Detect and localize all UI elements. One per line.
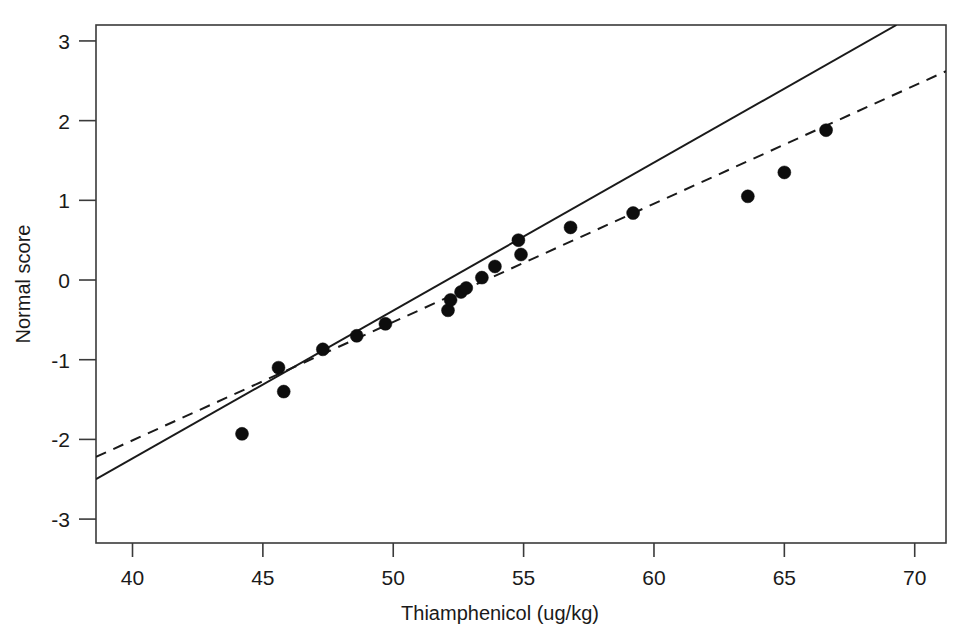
data-point-10 [475,271,488,284]
data-point-3 [316,343,329,356]
y-tick-label-3: 3 [58,30,70,53]
data-point-16 [741,190,754,203]
data-point-2 [277,385,290,398]
data-point-14 [564,221,577,234]
y-tick-label--2: -2 [51,428,70,451]
data-point-18 [820,124,833,137]
data-point-5 [379,317,392,330]
data-point-1 [272,361,285,374]
x-tick-label-70: 70 [903,566,926,589]
data-point-9 [460,281,473,294]
y-tick-label--1: -1 [51,349,70,372]
normal-probability-plot-figure: 40455055606570 3210-1-2-3 Thiamphenicol … [0,0,959,639]
data-point-7 [444,293,457,306]
x-tick-label-65: 65 [773,566,796,589]
x-tick-label-60: 60 [642,566,665,589]
x-tick-label-45: 45 [251,566,274,589]
y-tick-label-0: 0 [58,269,70,292]
data-point-17 [778,166,791,179]
x-tick-label-40: 40 [121,566,144,589]
data-point-11 [488,260,501,273]
y-axis-title: Normal score [12,225,34,344]
data-point-12 [512,234,525,247]
data-point-13 [515,248,528,261]
x-axis-title: Thiamphenicol (ug/kg) [401,602,599,624]
x-tick-label-55: 55 [512,566,535,589]
data-point-0 [236,427,249,440]
y-tick-label-1: 1 [58,189,70,212]
chart-canvas: 40455055606570 3210-1-2-3 Thiamphenicol … [0,0,959,639]
data-point-15 [627,207,640,220]
y-tick-label-2: 2 [58,110,70,133]
data-point-4 [350,329,363,342]
y-tick-label--3: -3 [51,508,70,531]
x-tick-label-50: 50 [382,566,405,589]
